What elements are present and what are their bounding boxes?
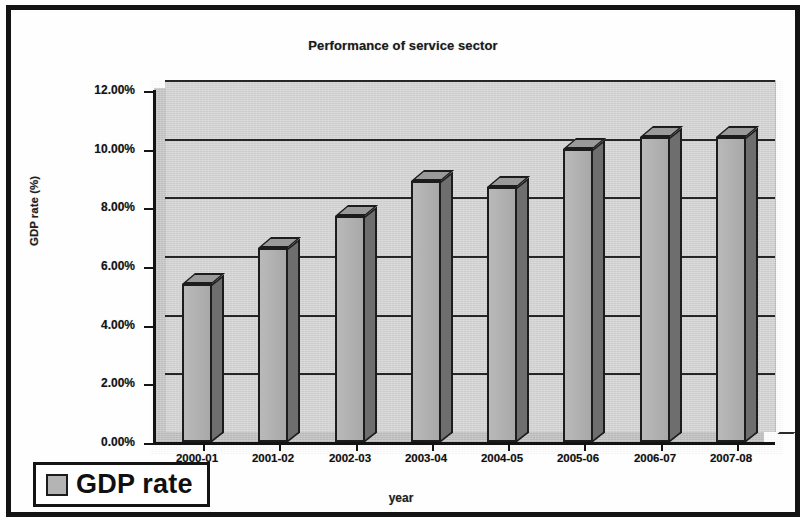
gridline [165, 80, 775, 82]
y-tick-mark [144, 267, 153, 269]
bar-front-face [258, 248, 288, 442]
plot-area: 0.00%2.00%4.00%6.00%8.00%10.00%12.00% 20… [151, 80, 783, 455]
y-tick-mark [144, 91, 153, 93]
bar [563, 149, 593, 442]
gridline [165, 256, 775, 258]
y-tick-label: 2.00% [65, 376, 135, 390]
y-tick-label: 6.00% [65, 259, 135, 273]
legend-label-gdp-rate: GDP rate [76, 471, 193, 498]
bar [487, 187, 517, 442]
bar [335, 216, 365, 442]
gridline [165, 373, 775, 375]
y-tick-mark [144, 326, 153, 328]
y-tick-mark [144, 443, 153, 445]
x-axis-line [153, 442, 775, 445]
bar [258, 248, 288, 442]
y-tick-mark [144, 384, 153, 386]
bar-front-face [563, 149, 593, 442]
axis-depth-edge [763, 432, 796, 446]
x-tick-label: 2007-08 [691, 452, 771, 464]
bar-side-face [212, 274, 224, 442]
bar-side-face [441, 172, 453, 442]
bar [716, 137, 746, 442]
bar-side-face [746, 128, 758, 442]
chart-title: Performance of service sector [11, 38, 795, 53]
figure-frame: Performance of service sector GDP rate (… [6, 5, 800, 517]
x-tick-label: 2001-02 [233, 452, 313, 464]
bar [640, 137, 670, 442]
bar-front-face [182, 284, 212, 442]
gridline [165, 197, 775, 199]
y-tick-mark [144, 150, 153, 152]
x-tick-label: 2002-03 [310, 452, 390, 464]
y-axis-title: GDP rate (%) [28, 136, 40, 286]
bar-front-face [411, 181, 441, 442]
bar-side-face [517, 177, 529, 442]
y-tick-label: 12.00% [65, 83, 135, 97]
y-axis-line [153, 90, 156, 442]
bar-side-face [288, 239, 300, 442]
bar-side-face [365, 207, 377, 442]
y-tick-label: 10.00% [65, 142, 135, 156]
y-tick-label: 0.00% [65, 435, 135, 449]
x-tick-label: 2006-07 [615, 452, 695, 464]
bar-side-face [593, 139, 605, 442]
figure-inner: Performance of service sector GDP rate (… [11, 10, 795, 512]
x-axis-title: year [341, 491, 461, 505]
x-tick-label: 2004-05 [462, 452, 542, 464]
y-tick-mark [144, 208, 153, 210]
bar-side-face [670, 128, 682, 442]
x-tick-label: 2005-06 [538, 452, 618, 464]
bar-front-face [487, 187, 517, 442]
gridline [165, 315, 775, 317]
gridline [165, 139, 775, 141]
bar-front-face [335, 216, 365, 442]
legend-swatch-gdp-rate [46, 474, 68, 496]
bar [182, 284, 212, 442]
bar [411, 181, 441, 442]
bar-front-face [640, 137, 670, 442]
legend: GDP rate [33, 462, 210, 507]
y-tick-label: 4.00% [65, 318, 135, 332]
x-tick-label: 2003-04 [386, 452, 466, 464]
y-tick-label: 8.00% [65, 200, 135, 214]
bar-front-face [716, 137, 746, 442]
